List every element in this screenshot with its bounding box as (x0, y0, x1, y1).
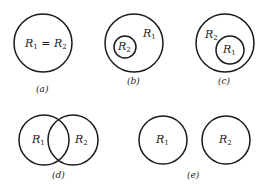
right-circle-r2 (48, 115, 98, 165)
panel-e: R1 R2 (e) (139, 116, 250, 180)
label-r1-equals-r2: R1 = R2 (24, 37, 67, 51)
caption-c: (c) (218, 76, 231, 86)
label-inner-r2: R2 (117, 40, 131, 54)
label-left-r1: R1 (31, 133, 45, 147)
caption-b: (b) (127, 76, 140, 86)
label-left-r1: R1 (155, 133, 169, 147)
label-right-r2: R2 (218, 133, 232, 147)
label-outer-r2: R2 (204, 28, 218, 42)
caption-e: (e) (187, 170, 200, 180)
label-right-r2: R2 (74, 133, 88, 147)
panel-d: R1 R2 (d) (19, 115, 98, 180)
label-inner-r1: R1 (222, 43, 236, 57)
caption-d: (d) (52, 170, 65, 180)
outer-circle-r1 (105, 14, 163, 72)
panel-b: R1 R2 (b) (105, 14, 163, 86)
region-relationship-diagram: R1 = R2 (a) R1 R2 (b) R2 R1 (c) R1 R2 (d… (0, 0, 264, 189)
panel-c: R2 R1 (c) (196, 14, 254, 86)
caption-a: (a) (36, 84, 49, 94)
label-outer-r1: R1 (142, 27, 156, 41)
panel-a: R1 = R2 (a) (14, 14, 72, 94)
